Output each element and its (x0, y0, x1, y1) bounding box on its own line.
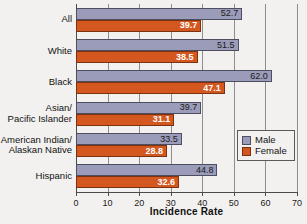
category-label-line: Pacific Islander (8, 114, 72, 125)
bar-male: 39.7 (76, 102, 201, 114)
x-axis-tick (234, 192, 235, 196)
legend-item-female: Female (242, 146, 290, 156)
bar-male: 51.5 (76, 39, 239, 51)
category-label: American Indian/Alaskan Native (1, 135, 72, 156)
bar-value-label: 44.8 (196, 166, 217, 175)
x-axis-tick (76, 192, 77, 196)
bar-female: 47.1 (76, 82, 225, 94)
bar-male: 33.5 (76, 133, 182, 145)
category-label: Asian/Pacific Islander (8, 103, 72, 124)
category-label-line: White (48, 46, 72, 57)
bar-value-label: 52.7 (221, 9, 242, 18)
bar-male: 62.0 (76, 70, 272, 82)
category-label-line: Hispanic (36, 171, 72, 182)
bar-female: 32.6 (76, 176, 179, 188)
legend: Male Female (237, 130, 295, 161)
bar-value-label: 39.7 (180, 103, 201, 112)
bar-chart: 01020304050607052.739.751.538.562.047.13… (0, 0, 307, 224)
legend-swatch-female-icon (242, 147, 251, 156)
x-axis-tick (202, 192, 203, 196)
bar-value-label: 33.5 (160, 135, 181, 144)
legend-label-male: Male (255, 135, 276, 145)
bar-value-label: 62.0 (250, 72, 271, 81)
gridline (234, 4, 235, 192)
gridline (297, 4, 298, 192)
bar-male: 44.8 (76, 164, 217, 176)
x-axis-tick (108, 192, 109, 196)
category-label-line: All (61, 14, 72, 25)
category-label: White (48, 46, 72, 57)
bar-value-label: 28.8 (145, 147, 166, 156)
bar-value-label: 47.1 (203, 84, 224, 93)
x-axis-title: Incidence Rate (76, 206, 297, 217)
legend-label-female: Female (255, 146, 287, 156)
bar-value-label: 38.5 (176, 53, 197, 62)
category-label: Hispanic (36, 171, 72, 182)
bar-value-label: 32.6 (157, 178, 178, 187)
x-axis-tick (265, 192, 266, 196)
gridline (265, 4, 266, 192)
category-label-line: Alaskan Native (1, 145, 72, 156)
bar-female: 39.7 (76, 20, 201, 32)
bar-male: 52.7 (76, 8, 242, 20)
bar-female: 28.8 (76, 145, 167, 157)
category-label: All (61, 14, 72, 25)
x-axis-tick (139, 192, 140, 196)
category-label: Black (49, 77, 72, 88)
legend-swatch-male-icon (242, 136, 251, 145)
category-label-line: Black (49, 77, 72, 88)
plot-area: 01020304050607052.739.751.538.562.047.13… (76, 4, 297, 192)
x-axis-tick (297, 192, 298, 196)
x-axis-tick (171, 192, 172, 196)
bar-value-label: 51.5 (217, 41, 238, 50)
legend-item-male: Male (242, 135, 290, 145)
bar-female: 38.5 (76, 51, 198, 63)
bar-value-label: 39.7 (180, 21, 201, 30)
bar-value-label: 31.1 (153, 115, 174, 124)
bar-female: 31.1 (76, 114, 174, 126)
